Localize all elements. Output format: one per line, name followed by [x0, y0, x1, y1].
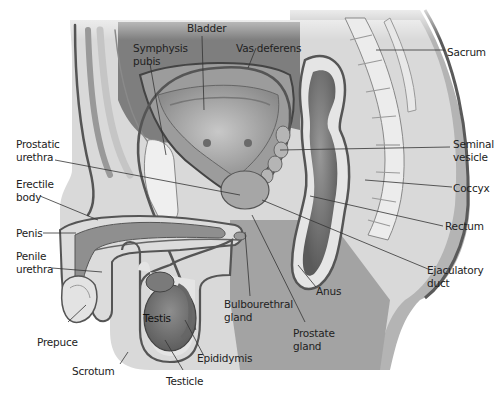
label-anus: Anus — [316, 285, 341, 297]
label-prepuce: Prepuce — [37, 336, 78, 348]
label-bulbourethral-gland-2: gland — [224, 311, 252, 323]
label-testis: Testis — [143, 312, 171, 324]
label-sacrum: Sacrum — [447, 46, 486, 58]
prostate-gland — [221, 171, 269, 209]
label-prostate-gland-2: gland — [293, 340, 321, 352]
label-coccyx: Coccyx — [453, 182, 490, 194]
label-prostatic-urethra-2: urethra — [16, 151, 53, 163]
label-penis: Penis — [16, 227, 42, 239]
label-scrotum: Scrotum — [72, 365, 115, 377]
label-erectile-body-1: Erectile — [16, 178, 54, 190]
label-penile-urethra-2: urethra — [16, 263, 53, 275]
label-penile-urethra-1: Penile — [16, 250, 46, 262]
label-epididymis: Epididymis — [197, 352, 252, 364]
label-symphysis-pubis-2: pubis — [133, 55, 160, 67]
label-seminal-vesicle-1: Seminal — [453, 138, 494, 150]
body-section — [60, 0, 480, 370]
label-erectile-body-2: body — [16, 191, 41, 203]
label-prostatic-urethra-1: Prostatic — [16, 138, 60, 150]
label-symphysis-pubis-1: Symphysis — [133, 42, 188, 54]
label-ejaculatory-duct-2: duct — [427, 277, 449, 289]
label-rectum: Rectum — [445, 220, 484, 232]
label-testicle: Testicle — [166, 375, 203, 387]
label-ejaculatory-duct-1: Ejaculatory — [427, 264, 484, 276]
label-bulbourethral-gland-1: Bulbourethral — [224, 298, 293, 310]
label-prostate-gland-1: Prostate — [293, 327, 335, 339]
label-vas-deferens: Vas deferens — [236, 42, 301, 54]
label-seminal-vesicle-2: vesicle — [453, 151, 488, 163]
label-bladder: Bladder — [187, 22, 226, 34]
